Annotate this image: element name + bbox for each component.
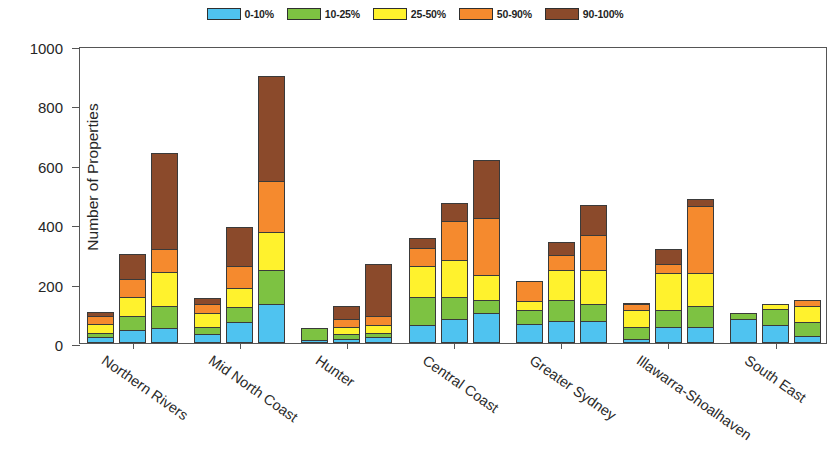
bar-segment [258,181,285,231]
y-axis-tick-label: 0 [55,337,63,354]
stacked-bar [762,304,789,343]
bar-segment [516,310,543,323]
legend-swatch-90to100 [545,8,579,20]
bar-segment [655,310,682,326]
bar-segment [580,205,607,235]
bar-segment [258,270,285,304]
bar-segment [301,340,328,343]
bar-segment [687,273,714,306]
y-axis-tick: 0 [72,345,80,346]
legend-label: 10-25% [325,8,360,20]
x-axis-category-label: Illawarra-Shoalhaven [634,352,755,443]
stacked-bar [333,306,360,343]
y-axis-tick-label: 800 [38,99,63,116]
bar-segment [151,272,178,306]
bar-segment [580,304,607,320]
bar-segment [473,313,500,343]
bar-segment [548,300,575,321]
bar-segment [119,254,146,279]
bar-segment [655,273,682,310]
bar-segment [365,264,392,316]
bar-segment [548,321,575,343]
bar-segment [655,264,682,273]
x-axis-category-label: Greater Sydney [527,352,619,423]
bar-segment [119,279,146,297]
stacked-bar [580,205,607,343]
bar-segment [409,297,436,325]
stacked-bar [623,303,650,343]
bar-segment [258,232,285,271]
bar-segment [226,288,253,307]
bar-segment [151,153,178,250]
bar-segment [151,249,178,271]
bar-segment [548,242,575,255]
bar-segment [623,310,650,326]
legend-swatch-10to25 [287,8,321,20]
bar-segment [548,255,575,270]
bar-segment [441,319,468,343]
x-axis-tick [133,343,134,349]
legend-swatch-50to90 [459,8,493,20]
stacked-bar [516,281,543,343]
stacked-bar [87,312,114,343]
stacked-bar [655,249,682,343]
bar-segment [580,321,607,343]
bar-segment [151,328,178,343]
bar-segment [87,324,114,333]
legend-item: 25-50% [373,8,446,20]
y-axis-tick: 400 [72,226,80,227]
y-axis-tick: 200 [72,286,80,287]
x-axis-tick [668,343,669,349]
x-axis-tick [347,343,348,349]
bar-segment [441,221,468,260]
legend-item: 90-100% [545,8,624,20]
bar-segment [580,235,607,271]
bar-segment [548,270,575,300]
bar-segment [441,260,468,297]
stacked-bar [258,76,285,343]
x-axis-category-label: South East [741,352,808,406]
bar-segment [226,307,253,322]
bar-segment [794,336,821,343]
stacked-bar [119,254,146,343]
stacked-bar [226,227,253,343]
legend-swatch-0to10 [207,8,241,20]
bar-segment [258,304,285,343]
x-axis-tick [561,343,562,349]
bar-segment [730,319,757,343]
bar-segment [516,281,543,302]
legend-item: 50-90% [459,8,532,20]
y-axis-tick: 600 [72,167,80,168]
bar-segment [441,203,468,221]
legend-label: 0-10% [245,8,274,20]
stacked-bar [441,203,468,343]
stacked-bar [794,300,821,343]
bar-segment [409,248,436,266]
x-axis-tick [776,343,777,349]
bar-segment [301,328,328,340]
bar-segment [119,297,146,316]
bar-segment [87,337,114,343]
legend-label: 25-50% [411,8,446,20]
stacked-bar [730,313,757,343]
bar-segment [687,327,714,343]
y-axis-tick-label: 400 [38,218,63,235]
stacked-bar [473,160,500,343]
bar-segment [762,325,789,343]
x-axis-category-label: Northern Rivers [98,352,190,423]
bar-segment [194,304,221,313]
bar-segment [794,306,821,322]
legend-label: 50-90% [497,8,532,20]
stacked-bar [687,199,714,343]
bar-segment [365,337,392,343]
bar-segment [473,275,500,300]
bar-segment [365,325,392,332]
bar-segment [194,313,221,326]
bar-segment [333,306,360,319]
x-axis-category-label: Hunter [313,352,358,390]
bar-segment [623,327,650,339]
bar-segment [333,327,360,334]
stacked-bar [301,328,328,343]
y-axis-tick-label: 600 [38,158,63,175]
stacked-bar [548,242,575,343]
